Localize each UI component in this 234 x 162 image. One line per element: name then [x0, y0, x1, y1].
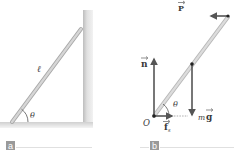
wall	[83, 10, 93, 128]
floor	[0, 122, 93, 128]
normal-force-label: n	[141, 59, 148, 69]
origin-dot	[152, 114, 156, 118]
angle-label: θ	[30, 111, 35, 120]
friction-subscript: s	[168, 127, 171, 133]
panel-a: ℓ θ a	[0, 10, 93, 151]
weight-m-label: m	[198, 113, 205, 122]
panel-b: n m g P f s O θ b	[140, 1, 234, 151]
weight-g-label: g	[206, 112, 213, 122]
force-P-label: P	[178, 3, 184, 13]
panel-label-b: b	[152, 141, 157, 151]
panel-label-a: a	[8, 141, 13, 151]
angle-label-fbd: θ	[173, 100, 178, 109]
length-label: ℓ	[37, 64, 41, 74]
center-of-mass-dot	[190, 62, 194, 66]
origin-label: O	[143, 118, 150, 128]
ladder-diagram: ℓ θ a n m g P f s	[0, 0, 234, 162]
